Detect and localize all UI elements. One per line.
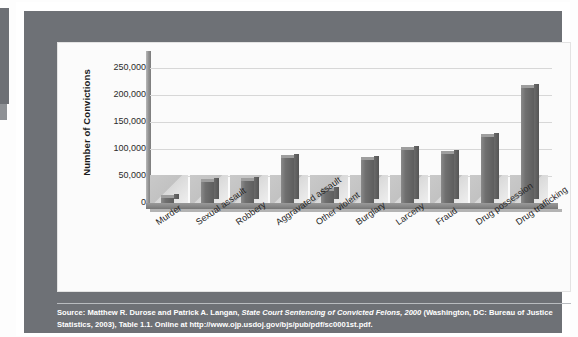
bar-top-face bbox=[441, 151, 454, 154]
y-tick-label: 0 bbox=[98, 198, 146, 207]
bar bbox=[390, 54, 430, 203]
caption-table-and-url: 2003), Table 1.1. Online at http://www.o… bbox=[95, 320, 373, 329]
caption-divider bbox=[57, 303, 571, 304]
figure-root: Number of Convictions 250,000200,000150,… bbox=[0, 0, 578, 337]
adjacent-page-sliver bbox=[0, 8, 9, 104]
bar-side-face bbox=[294, 154, 299, 199]
caption-report-title: State Court Sentencing of Convicted Felo… bbox=[242, 308, 422, 317]
bar-side-face bbox=[254, 177, 259, 199]
bar bbox=[190, 54, 230, 203]
bar-top-face bbox=[241, 178, 254, 181]
bar-front-face bbox=[361, 160, 374, 203]
bar-side-face bbox=[214, 178, 219, 199]
caption-source-prefix: Source: Matthew R. Durose and Patrick A.… bbox=[57, 308, 242, 317]
bar-top-face bbox=[281, 155, 294, 158]
y-tick-label: 200,000 bbox=[98, 90, 146, 99]
bar-side-face bbox=[534, 84, 539, 199]
bar bbox=[270, 54, 310, 203]
bar-side-face bbox=[494, 133, 499, 199]
bar-side-face bbox=[334, 187, 339, 199]
y-tick-label: 250,000 bbox=[98, 63, 146, 72]
y-tick-label: 50,000 bbox=[98, 171, 146, 180]
x-axis-tick-labels: MurderSexual assaultRobberyAggravated as… bbox=[150, 213, 570, 291]
bar-side-face bbox=[374, 156, 379, 199]
bar bbox=[350, 54, 390, 203]
bar-side-face bbox=[174, 194, 179, 199]
y-tick-label: 100,000 bbox=[98, 144, 146, 153]
bar bbox=[470, 54, 510, 203]
bar-side-face bbox=[414, 146, 419, 199]
y-axis-tick-labels: 250,000200,000150,000100,00050,0000 bbox=[94, 43, 146, 293]
bar bbox=[230, 54, 270, 203]
bar-front-face bbox=[281, 158, 294, 203]
figure-source-caption: Source: Matthew R. Durose and Patrick A.… bbox=[57, 307, 573, 330]
bar-side-face bbox=[454, 150, 459, 199]
y-axis-title: Number of Convictions bbox=[81, 63, 92, 183]
bar-series bbox=[150, 54, 554, 203]
bar-top-face bbox=[401, 147, 414, 150]
bar-top-face bbox=[361, 157, 374, 160]
figure-frame: Number of Convictions 250,000200,000150,… bbox=[24, 11, 562, 333]
adjacent-page-sliver-lower bbox=[0, 104, 7, 120]
bar bbox=[510, 54, 550, 203]
bar-front-face bbox=[441, 154, 454, 203]
bar bbox=[430, 54, 470, 203]
bar-top-face bbox=[481, 134, 494, 137]
bar-front-face bbox=[481, 137, 494, 203]
bar-chart: Number of Convictions 250,000200,000150,… bbox=[58, 43, 572, 293]
bar-front-face bbox=[201, 182, 214, 203]
bar-top-face bbox=[161, 195, 174, 198]
bar bbox=[150, 54, 190, 203]
bar-top-face bbox=[201, 179, 214, 182]
y-tick-label: 150,000 bbox=[98, 117, 146, 126]
bar-front-face bbox=[401, 150, 414, 203]
bar-top-face bbox=[521, 85, 534, 88]
chart-panel: Number of Convictions 250,000200,000150,… bbox=[57, 42, 571, 292]
